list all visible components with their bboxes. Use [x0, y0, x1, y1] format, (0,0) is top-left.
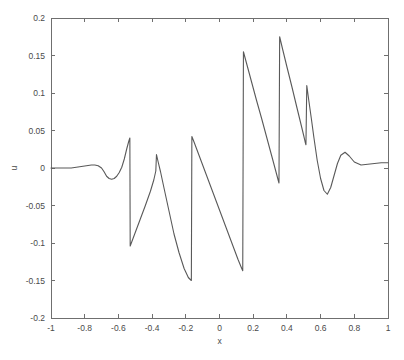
x-tick-label: 0: [217, 323, 222, 333]
x-tick-label: -1: [47, 323, 55, 333]
x-tick-label: -0.2: [178, 323, 193, 333]
x-tick-label: -0.6: [111, 323, 126, 333]
x-tick-label: 1: [386, 323, 391, 333]
x-tick-label: -0.8: [77, 323, 92, 333]
y-axis-title: u: [9, 165, 19, 170]
line-chart: 0.20.150.10.050-0.05-0.1-0.15-0.2 -1-0.8…: [0, 0, 404, 360]
x-tick-label: 0.8: [348, 323, 360, 333]
y-tick-label: -0.1: [30, 238, 45, 248]
x-tick-label: -0.4: [145, 323, 160, 333]
y-tick-label: -0.2: [30, 313, 45, 323]
y-tick-label: 0.05: [28, 126, 45, 136]
x-tick-label: 0.2: [247, 323, 259, 333]
y-tick-label: 0.15: [28, 51, 45, 61]
chart-background: [0, 0, 404, 360]
figure-container: 0.20.150.10.050-0.05-0.1-0.15-0.2 -1-0.8…: [0, 0, 404, 360]
x-tick-label: 0.6: [315, 323, 327, 333]
y-tick-label: -0.15: [26, 276, 46, 286]
y-tick-label: 0: [40, 163, 45, 173]
y-tick-label: -0.05: [26, 201, 46, 211]
y-tick-label: 0.2: [33, 13, 45, 23]
y-tick-label: 0.1: [33, 88, 45, 98]
x-tick-label: 0.4: [281, 323, 293, 333]
